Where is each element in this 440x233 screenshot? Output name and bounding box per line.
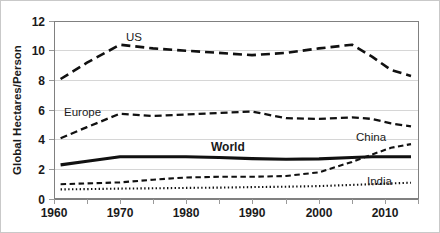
series-line-india: [61, 183, 411, 190]
y-tick-label: 8: [38, 74, 45, 88]
x-tick-label: 2010: [372, 206, 399, 220]
x-axis-tickmarks: [54, 199, 418, 204]
series-line-world: [61, 157, 411, 165]
x-tick-label: 1990: [239, 206, 266, 220]
y-tick-label: 12: [32, 15, 46, 29]
y-axis-tickmarks: [49, 21, 54, 199]
x-tick-label: 1970: [107, 206, 134, 220]
y-tick-label: 2: [38, 163, 45, 177]
y-tick-label: 10: [32, 44, 46, 58]
x-axis-tick-labels: 1960 1970 1980 1990 2000 2010: [41, 206, 399, 220]
series-label-world: World: [211, 140, 245, 154]
x-tick-label: 1960: [41, 206, 68, 220]
y-tick-label: 4: [38, 133, 45, 147]
series-line-us: [61, 45, 411, 79]
series-label-china: China: [356, 131, 387, 143]
chart-figure: 12 10 8 6 4 2 0 1960 1970 1980 1990 2000…: [0, 0, 440, 233]
line-chart-canvas: 12 10 8 6 4 2 0 1960 1970 1980 1990 2000…: [1, 1, 440, 233]
y-axis-tick-labels: 12 10 8 6 4 2 0: [32, 15, 46, 207]
series-label-europe: Europe: [64, 106, 101, 118]
y-axis-title: Global Hectares/Person: [11, 45, 23, 175]
series-label-us: US: [126, 31, 142, 43]
y-tick-label: 6: [38, 104, 45, 118]
x-tick-label: 1980: [173, 206, 200, 220]
x-tick-label: 2000: [306, 206, 333, 220]
y-tick-label: 0: [38, 193, 45, 207]
series-label-india: India: [367, 175, 393, 187]
